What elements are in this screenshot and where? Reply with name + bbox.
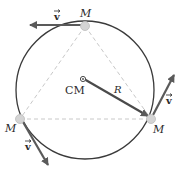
velocity-label-left: v xyxy=(24,141,32,152)
mass-label-left: M xyxy=(4,122,17,135)
radius-label: R xyxy=(113,84,122,95)
velocity-label-top: v xyxy=(53,11,61,22)
orbit-circle xyxy=(16,21,154,159)
dashed-triangle xyxy=(20,26,151,119)
mass-left xyxy=(16,115,25,124)
velocity-label-right: v xyxy=(165,95,173,106)
mass-label-right: M xyxy=(152,123,165,136)
mass-label-top: M xyxy=(79,7,92,20)
center-of-mass-label: CM xyxy=(65,84,85,97)
mass-top xyxy=(81,22,90,31)
three-body-circular-orbit-diagram: M M M CM R v v v xyxy=(0,0,186,170)
